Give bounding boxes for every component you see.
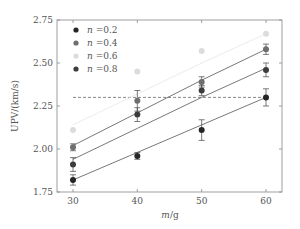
y-axis-title: UPV/(km/s) [10,80,20,132]
x-tick-label: 40 [132,196,144,206]
data-point-n02 [134,153,140,159]
legend-marker-n08 [73,66,78,71]
data-point-n08 [263,67,269,73]
data-point-n06 [199,48,205,54]
y-tick-label: 1.75 [33,187,53,197]
upv-vs-mass-chart: 30405060 1.752.002.252.502.75 n =0.2n =0… [0,0,300,229]
x-tick-label: 50 [196,196,208,206]
data-point-n06 [134,69,140,75]
legend: n =0.2n =0.4n =0.6n =0.8 [73,25,117,74]
legend-label: n =0.8 [87,64,118,74]
data-point-n08 [70,161,76,167]
legend-marker-n04 [73,40,78,45]
data-point-n06 [70,127,76,133]
x-axis-title: m/g [161,210,179,220]
y-axis-ticks: 1.752.002.252.502.75 [33,15,282,197]
data-point-n04 [263,46,269,52]
data-point-n06 [263,31,269,37]
data-point-n02 [70,177,76,183]
data-point-n04 [199,79,205,85]
legend-marker-n06 [73,53,78,58]
legend-label: n =0.2 [87,25,118,35]
chart-canvas: 30405060 1.752.002.252.502.75 n =0.2n =0… [0,0,300,229]
data-point-n04 [134,98,140,104]
legend-marker-n02 [73,27,78,32]
legend-label: n =0.6 [87,51,118,61]
data-point-n08 [134,112,140,118]
data-point-n08 [199,88,205,94]
data-point-n02 [263,94,269,100]
data-point-n02 [199,127,205,133]
y-tick-label: 2.25 [33,101,53,111]
fit-line-n08 [73,68,266,159]
data-point-n04 [70,144,76,150]
y-tick-label: 2.00 [33,144,53,154]
fit-line-n02 [73,97,266,180]
y-tick-label: 2.50 [33,58,53,68]
x-tick-label: 60 [260,196,272,206]
legend-label: n =0.4 [87,38,118,48]
y-tick-label: 2.75 [33,15,53,25]
x-tick-label: 30 [67,196,79,206]
